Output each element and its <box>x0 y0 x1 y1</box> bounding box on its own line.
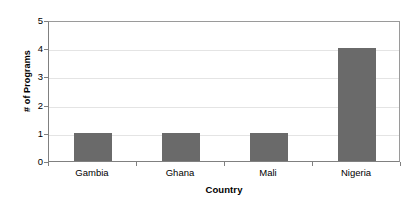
y-axis-tick-label: 2 <box>29 101 43 111</box>
x-axis-tick-mark <box>400 162 401 166</box>
y-axis-tick-label: 3 <box>29 72 43 82</box>
y-axis-tick-label: 1 <box>29 129 43 139</box>
bar[interactable] <box>162 133 200 161</box>
y-axis-tick-labels: 012345 <box>28 0 43 206</box>
bar[interactable] <box>338 48 376 161</box>
bar-series <box>49 22 399 161</box>
bar[interactable] <box>74 133 112 161</box>
bar-chart: # of Programs 012345 GambiaGhanaMaliNige… <box>0 0 413 206</box>
x-axis-title: Country <box>48 184 400 196</box>
x-axis-category-label: Gambia <box>48 167 136 179</box>
x-axis-tick-mark <box>312 162 313 166</box>
y-axis-tick-label: 0 <box>29 157 43 167</box>
x-axis-tick-mark <box>224 162 225 166</box>
y-axis-tick-label: 5 <box>29 16 43 26</box>
x-axis-tick-mark <box>48 162 49 166</box>
x-axis-tick-mark <box>136 162 137 166</box>
plot-area <box>48 21 400 162</box>
y-axis-tick-label: 4 <box>29 44 43 54</box>
x-axis-category-label: Mali <box>224 167 312 179</box>
x-axis-category-label: Nigeria <box>312 167 400 179</box>
bar[interactable] <box>250 133 288 161</box>
x-axis-category-label: Ghana <box>136 167 224 179</box>
